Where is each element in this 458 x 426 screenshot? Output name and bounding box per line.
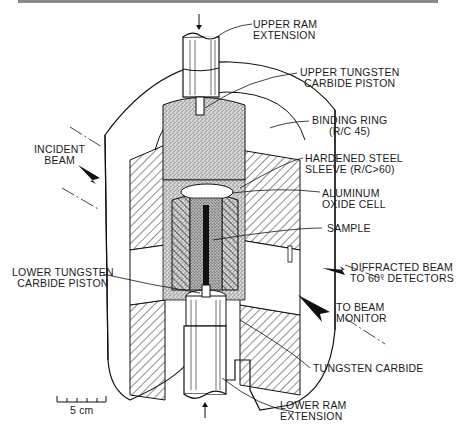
label-upper-ram-extension: UPPER RAMEXTENSION [253, 19, 317, 41]
incident-beam-arrow [78, 165, 100, 184]
sample [203, 205, 209, 285]
label-incident-beam: INCIDENTBEAM [34, 144, 85, 166]
label-binding-ring: BINDING RING(R/C 45) [312, 115, 387, 137]
label-lower-ram-extension: LOWER RAMEXTENSION [280, 400, 347, 422]
label-upper-tungsten-carbide-piston: UPPER TUNGSTENCARBIDE PISTON [300, 67, 399, 89]
scale-bar [57, 396, 106, 402]
label-aluminum-oxide-cell: ALUMINUMOXIDE CELL [322, 188, 386, 210]
label-diffracted-beam: DIFFRACTED BEAMTO 60° DETECTORS [350, 262, 454, 284]
scale-bar-label: 5 cm [70, 405, 94, 416]
label-hardened-steel-sleeve: HARDENED STEELSLEEVE (R/C>60) [305, 153, 403, 175]
label-lower-tungsten-carbide-piston: LOWER TUNGSTENCARBIDE PISTON [12, 267, 114, 289]
label-sample: SAMPLE [327, 223, 371, 234]
label-tungsten-carbide: TUNGSTEN CARBIDE [313, 363, 424, 374]
lower-ram-extension [184, 285, 226, 398]
label-to-beam-monitor: TO BEAMMONITOR [336, 302, 387, 324]
